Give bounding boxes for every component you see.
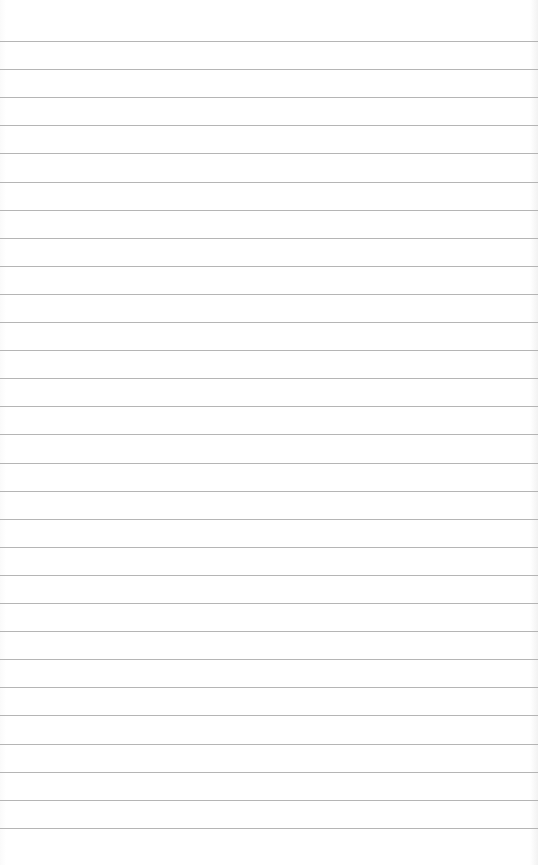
ruled-line bbox=[0, 772, 538, 773]
ruled-line bbox=[0, 294, 538, 295]
ruled-line bbox=[0, 828, 538, 829]
ruled-line bbox=[0, 69, 538, 70]
ruled-line bbox=[0, 491, 538, 492]
ruled-line bbox=[0, 687, 538, 688]
ruled-line bbox=[0, 519, 538, 520]
ruled-line bbox=[0, 182, 538, 183]
ruled-paper-page bbox=[0, 0, 538, 865]
ruled-line bbox=[0, 744, 538, 745]
ruled-line bbox=[0, 463, 538, 464]
ruled-line bbox=[0, 800, 538, 801]
ruled-line bbox=[0, 350, 538, 351]
ruled-line bbox=[0, 659, 538, 660]
ruled-line bbox=[0, 153, 538, 154]
ruled-line bbox=[0, 238, 538, 239]
ruled-line bbox=[0, 125, 538, 126]
ruled-line bbox=[0, 631, 538, 632]
ruled-line bbox=[0, 41, 538, 42]
ruled-line bbox=[0, 322, 538, 323]
ruled-line bbox=[0, 266, 538, 267]
ruled-line bbox=[0, 378, 538, 379]
ruled-line bbox=[0, 97, 538, 98]
ruled-line bbox=[0, 434, 538, 435]
ruled-line bbox=[0, 575, 538, 576]
ruled-line bbox=[0, 603, 538, 604]
ruled-line bbox=[0, 210, 538, 211]
ruled-line bbox=[0, 547, 538, 548]
ruled-line bbox=[0, 406, 538, 407]
ruled-line bbox=[0, 715, 538, 716]
